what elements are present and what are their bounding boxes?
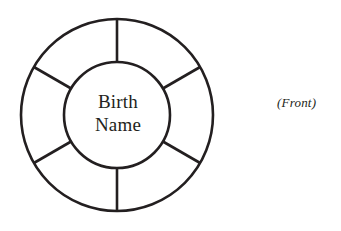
spoke-lower-right [163,142,200,164]
front-caption: (Front) [277,95,316,111]
hub-label-line1: Birth [98,91,138,112]
wheel-diagram: Birth Name [0,0,341,231]
hub-label-line2: Name [95,114,141,135]
birth-name-wheel-figure: Birth Name (Front) [0,0,341,231]
spoke-upper-left [34,67,71,89]
spoke-lower-left [34,142,71,164]
spoke-upper-right [163,67,200,89]
